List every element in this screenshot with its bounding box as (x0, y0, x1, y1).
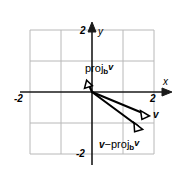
vector-group (88, 83, 145, 126)
diff-label-vector: v (134, 138, 139, 148)
v-minus-proj-b-v-label: v−projbv (99, 139, 139, 150)
x-axis-label: x (163, 77, 168, 87)
x-axis-arrowhead (162, 88, 172, 96)
proj-b-v-label-vector: v (108, 62, 113, 72)
diff-label-prefix: proj (111, 138, 129, 150)
x-tick-label-2: 2 (150, 94, 156, 104)
x-tick-label-minus-2: -2 (14, 94, 23, 104)
arrowhead-v (141, 111, 150, 120)
vector-projection-figure: y x 2 -2 -2 2 projbv v v−projbv (0, 0, 182, 177)
y-axis-label: y (98, 27, 103, 37)
proj-b-v-label-prefix: proj (85, 62, 103, 74)
vector-arrowheads (85, 80, 150, 132)
plot-canvas (0, 0, 182, 177)
y-axis-arrowhead (88, 22, 96, 32)
y-tick-label-minus-2: -2 (76, 149, 85, 159)
y-tick-label-2: 2 (80, 26, 86, 36)
proj-b-v-label: projbv (85, 63, 113, 74)
v-label: v (153, 110, 159, 120)
arrowhead-v-minus-proj (134, 123, 143, 132)
